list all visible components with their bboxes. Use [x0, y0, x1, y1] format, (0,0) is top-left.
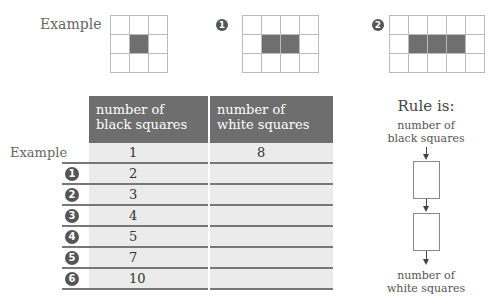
- row-badge: 6: [65, 272, 79, 286]
- white-square: [447, 54, 466, 73]
- white-square: [262, 54, 281, 73]
- white-square: [243, 54, 262, 73]
- cell-white-squares[interactable]: [210, 269, 333, 288]
- black-square: [130, 35, 149, 54]
- white-square: [130, 54, 149, 73]
- arrow-line-2: [426, 199, 427, 206]
- rule-box-2[interactable]: [413, 213, 440, 251]
- grid-2: [389, 15, 485, 73]
- header-white-squares: number of white squares: [210, 96, 333, 143]
- arrow-down-icon: [423, 154, 429, 160]
- header-black-line1: number of: [96, 102, 208, 117]
- arrow-down-icon: [423, 206, 429, 212]
- white-square: [390, 54, 409, 73]
- white-square: [300, 54, 319, 73]
- row-badge: 1: [65, 167, 79, 181]
- black-square: [409, 35, 428, 54]
- white-square: [447, 16, 466, 35]
- black-square: [281, 35, 300, 54]
- black-square: [428, 35, 447, 54]
- white-square: [149, 16, 168, 35]
- white-square: [262, 16, 281, 35]
- black-square: [447, 35, 466, 54]
- white-square: [390, 16, 409, 35]
- header-black-squares: number of black squares: [89, 96, 208, 143]
- cell-black-squares: 5: [89, 227, 208, 246]
- white-square: [409, 54, 428, 73]
- cell-black-squares: 4: [89, 206, 208, 225]
- cell-white-squares[interactable]: [210, 248, 333, 267]
- white-square: [390, 35, 409, 54]
- row-divider: [210, 288, 333, 290]
- white-square: [111, 35, 130, 54]
- white-square: [149, 35, 168, 54]
- white-square: [300, 35, 319, 54]
- white-square: [111, 54, 130, 73]
- rule-output-label: number of white squares: [366, 269, 486, 295]
- grid-1: [242, 15, 319, 73]
- header-white-line2: white squares: [217, 117, 333, 132]
- header-white-line1: number of: [217, 102, 333, 117]
- cell-white-squares[interactable]: [210, 164, 333, 183]
- white-square: [466, 54, 485, 73]
- white-square: [130, 16, 149, 35]
- white-square: [111, 16, 130, 35]
- white-square: [428, 16, 447, 35]
- row-badge: 2: [65, 188, 79, 202]
- white-square: [149, 54, 168, 73]
- header-black-line2: black squares: [96, 117, 208, 132]
- badge-2: 2: [372, 19, 384, 31]
- cell-black-squares: 7: [89, 248, 208, 267]
- cell-black-squares: 2: [89, 164, 208, 183]
- white-square: [428, 54, 447, 73]
- row-badge: 3: [65, 209, 79, 223]
- cell-white-squares[interactable]: [210, 185, 333, 204]
- example-label: Example: [40, 16, 101, 32]
- rule-title: Rule is:: [376, 97, 476, 115]
- example-grid: [110, 15, 168, 73]
- white-square: [409, 16, 428, 35]
- cell-black-squares: 1: [89, 143, 208, 162]
- cell-white-squares[interactable]: [210, 206, 333, 225]
- cell-white-squares[interactable]: 8: [210, 143, 333, 162]
- rule-box-1[interactable]: [413, 161, 440, 199]
- row-label: Example: [10, 145, 67, 160]
- cell-black-squares: 10: [89, 269, 208, 288]
- row-divider: [62, 288, 208, 290]
- white-square: [466, 16, 485, 35]
- badge-1: 1: [216, 19, 228, 31]
- white-square: [466, 35, 485, 54]
- rule-input-label: number of black squares: [366, 119, 486, 145]
- row-badge: 5: [65, 251, 79, 265]
- row-badge: 4: [65, 230, 79, 244]
- white-square: [300, 16, 319, 35]
- white-square: [281, 54, 300, 73]
- cell-white-squares[interactable]: [210, 227, 333, 246]
- white-square: [243, 16, 262, 35]
- white-square: [243, 35, 262, 54]
- arrow-down-icon: [423, 259, 429, 265]
- white-square: [281, 16, 300, 35]
- cell-black-squares: 3: [89, 185, 208, 204]
- black-square: [262, 35, 281, 54]
